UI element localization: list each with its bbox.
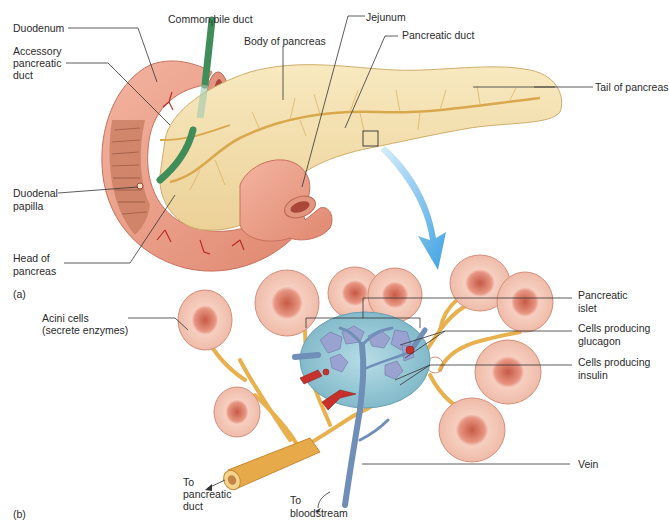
label-vein: Vein	[578, 458, 598, 471]
label-glucagon-cells-line1: Cells producing	[578, 322, 650, 335]
label-acini-cells-line1: Acini cells	[42, 312, 89, 325]
label-jejunum: Jejunum	[366, 11, 406, 24]
label-duodenal-papilla-line1: Duodenal	[13, 187, 58, 200]
label-accessory-duct-line1: Accessory	[13, 45, 61, 58]
label-duodenum: Duodenum	[13, 22, 64, 35]
label-tail-of-pancreas: Tail of pancreas	[595, 81, 669, 94]
label-pancreatic-islet-line2: islet	[578, 302, 597, 315]
label-pancreatic-islet-line1: Pancreatic	[578, 289, 628, 302]
label-to-pancreatic-duct-line3: duct	[183, 500, 203, 513]
label-accessory-duct-line3: duct	[13, 69, 33, 82]
duodenal-papilla	[137, 183, 143, 189]
label-head-of-pancreas-line2: pancreas	[13, 265, 56, 278]
label-insulin-cells-line1: Cells producing	[578, 356, 650, 369]
panel-a-tag: (a)	[13, 288, 26, 300]
label-body-of-pancreas: Body of pancreas	[244, 35, 326, 48]
panel-a-illustration	[102, 20, 562, 271]
label-to-bloodstream-line1: To	[290, 494, 301, 507]
zoom-arrow	[380, 146, 446, 270]
label-head-of-pancreas-line1: Head of	[13, 252, 50, 265]
label-duodenal-papilla-line2: papilla	[13, 200, 43, 213]
panel-b-illustration	[178, 255, 553, 505]
label-glucagon-cells-line2: glucagon	[578, 335, 621, 348]
label-to-bloodstream-line2: bloodstream	[290, 507, 348, 520]
label-acini-cells-line2: (secrete enzymes)	[42, 324, 128, 337]
label-to-pancreatic-duct-line1: To	[183, 476, 194, 489]
panel-b-tag: (b)	[13, 508, 26, 520]
label-accessory-duct-line2: pancreatic	[13, 57, 61, 70]
label-pancreatic-duct: Pancreatic duct	[402, 29, 474, 42]
pancreatic-duct-stub	[228, 438, 320, 488]
label-insulin-cells-line2: insulin	[578, 369, 608, 382]
jejunum	[240, 160, 332, 241]
pancreas	[160, 65, 562, 230]
label-common-bile-duct: Common bile duct	[168, 13, 253, 26]
common-bile-duct	[205, 20, 212, 85]
label-to-pancreatic-duct-line2: pancreatic	[183, 488, 231, 501]
